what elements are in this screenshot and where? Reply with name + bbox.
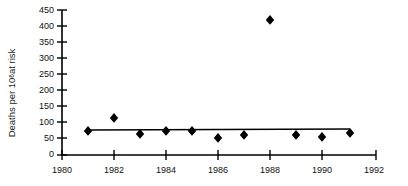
trend-line <box>88 129 350 130</box>
chart-container: Deaths per 106 at risk 450 400 350 300 2… <box>0 0 408 186</box>
data-point-1986 <box>214 133 222 143</box>
data-point-1988-outlier <box>266 15 274 25</box>
data-point-1982 <box>110 113 118 123</box>
data-point-1990 <box>318 132 326 142</box>
plot-area <box>0 0 408 186</box>
data-point-1984 <box>162 126 170 136</box>
data-point-1989 <box>292 130 300 140</box>
data-point-group <box>84 15 354 143</box>
data-point-1987 <box>240 130 248 140</box>
data-point-1985 <box>188 126 196 136</box>
data-point-1981 <box>84 126 92 136</box>
